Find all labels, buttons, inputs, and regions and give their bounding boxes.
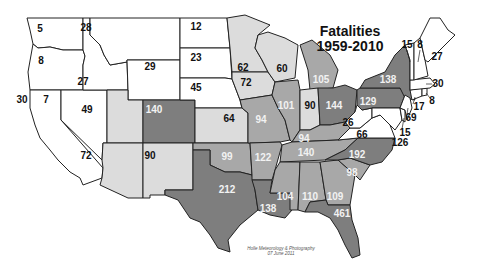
state-value-pa: 129 — [360, 96, 377, 107]
state-value-mt: 28 — [80, 22, 92, 33]
state-value-ar: 122 — [255, 152, 272, 163]
state-value-wv: 26 — [342, 117, 354, 128]
map-title: Fatalities 1959-2010 — [300, 24, 400, 54]
map-credit: Holle Meteorology & Photography 07 June … — [236, 246, 326, 256]
state-value-nd: 12 — [190, 21, 202, 32]
title-line1: Fatalities — [300, 24, 400, 39]
state-value-nc: 192 — [349, 149, 366, 160]
state-value-vt: 15 — [401, 39, 413, 50]
state-value-fl: 461 — [334, 208, 351, 219]
state-value-ms: 104 — [277, 191, 294, 202]
state-value-ga: 109 — [327, 191, 344, 202]
state-value-mi: 105 — [313, 74, 330, 85]
credit-line2: 07 June 2011 — [236, 251, 326, 256]
title-line2: 1959-2010 — [300, 39, 400, 54]
state-value-ri: 8 — [429, 95, 435, 106]
state-value-il: 101 — [278, 100, 295, 111]
state-north-dakota — [180, 18, 230, 48]
state-value-wy: 29 — [144, 61, 156, 72]
state-kansas — [195, 108, 248, 143]
state-value-md: 126 — [392, 137, 409, 148]
state-value-nm: 90 — [144, 150, 156, 161]
state-south-dakota — [180, 48, 232, 79]
state-value-sd: 23 — [190, 52, 202, 63]
state-value-me: 27 — [431, 51, 443, 62]
state-value-tn: 140 — [298, 147, 315, 158]
state-value-ma: 30 — [432, 78, 444, 89]
state-value-nh: 8 — [417, 39, 423, 50]
state-value-ok: 99 — [221, 151, 233, 162]
state-value-mo: 94 — [255, 114, 267, 125]
state-value-tx: 212 — [219, 184, 236, 195]
state-value-sc: 98 — [346, 167, 358, 178]
state-value-or: 8 — [38, 55, 44, 66]
state-arizona — [100, 143, 143, 198]
state-value-ia: 72 — [240, 77, 252, 88]
state-value-al: 110 — [302, 191, 319, 202]
state-value-id: 27 — [77, 76, 89, 87]
state-value-co: 140 — [146, 104, 163, 115]
state-value-ks: 64 — [223, 113, 235, 124]
state-value-ne: 45 — [190, 82, 202, 93]
state-oregon — [28, 44, 85, 90]
state-value-la: 138 — [260, 203, 277, 214]
state-value-wa: 5 — [37, 23, 43, 34]
state-value-mn: 62 — [237, 62, 249, 73]
state-value-ca: 30 — [16, 94, 28, 105]
state-value-az: 72 — [80, 150, 92, 161]
state-value-oh: 144 — [326, 100, 343, 111]
state-value-ct: 17 — [413, 101, 425, 112]
state-value-ky: 94 — [298, 133, 310, 144]
state-value-ut: 49 — [81, 104, 93, 115]
state-value-va: 66 — [356, 129, 368, 140]
state-value-ny: 138 — [380, 74, 397, 85]
us-map: 5830727282949140729012234564992126272941… — [0, 0, 477, 273]
state-value-nv: 7 — [43, 94, 49, 105]
state-washington — [27, 18, 83, 50]
state-value-wi: 60 — [276, 63, 288, 74]
state-value-in: 90 — [304, 100, 316, 111]
